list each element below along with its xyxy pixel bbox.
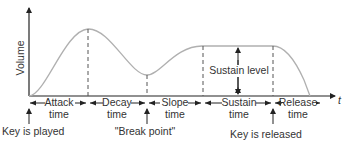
key-released-label: Key is released: [230, 128, 302, 140]
break-point-label: "Break point": [115, 125, 176, 137]
phase-decay-line1: Decay: [102, 96, 133, 108]
sustain-level-label: Sustain level: [209, 64, 269, 76]
key-played-label: Key is played: [2, 125, 65, 137]
phase-decay-line2: time: [107, 108, 127, 120]
phase-slope-line2: time: [165, 108, 185, 120]
phase-release-line1: Release: [279, 96, 318, 108]
x-axis-label: t: [338, 94, 342, 106]
phase-attack-line2: time: [49, 108, 69, 120]
y-axis-label: Volume: [14, 40, 26, 75]
adsr-envelope-diagram: Volume t Sustain level Attack time Deca: [0, 0, 346, 145]
phase-release-line2: time: [288, 108, 308, 120]
phase-sustain-line2: time: [229, 108, 249, 120]
envelope-curve: [29, 29, 310, 96]
phase-slope-line1: Slope: [162, 96, 189, 108]
phase-attack-line1: Attack: [44, 96, 74, 108]
phase-sustain-line1: Sustain: [221, 96, 256, 108]
